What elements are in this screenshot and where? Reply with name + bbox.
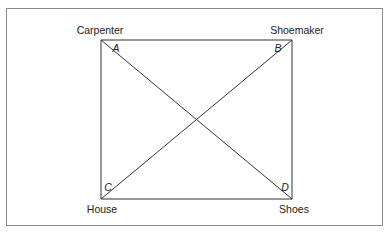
node-label-shoemaker: Shoemaker [270,25,324,36]
node-label-house: House [87,204,117,215]
node-label-carpenter: Carpenter [77,25,124,36]
node-label-shoes: Shoes [279,204,309,215]
corner-letter-c: C [104,182,112,193]
corner-letter-a: A [112,43,119,54]
exchange-diagram [0,0,392,234]
corner-letter-b: B [274,43,281,54]
corner-letter-d: D [281,182,289,193]
